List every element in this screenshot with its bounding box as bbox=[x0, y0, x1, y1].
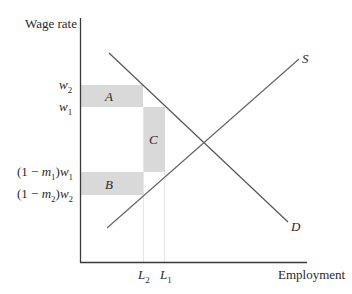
tick-net-w1: (1 − m1)w1 bbox=[17, 164, 73, 182]
demand-curve bbox=[109, 53, 288, 222]
tick-l1: L1 bbox=[159, 267, 172, 285]
tick-l2: L2 bbox=[137, 267, 150, 285]
region-a-label: A bbox=[104, 89, 113, 104]
tick-net-w2: (1 − m2)w2 bbox=[17, 186, 73, 204]
tax-wedge-diagram: Wage rate Employment S D A C B w2 w1 (1 … bbox=[0, 0, 352, 294]
tick-w2: w2 bbox=[59, 77, 72, 95]
tick-w1: w1 bbox=[59, 99, 72, 117]
supply-curve bbox=[107, 59, 299, 228]
supply-label: S bbox=[302, 51, 309, 66]
region-b-label: B bbox=[105, 177, 113, 192]
region-c-label: C bbox=[149, 132, 158, 147]
demand-label: D bbox=[290, 219, 301, 234]
x-axis-label: Employment bbox=[278, 267, 346, 282]
y-axis-label: Wage rate bbox=[25, 16, 77, 31]
